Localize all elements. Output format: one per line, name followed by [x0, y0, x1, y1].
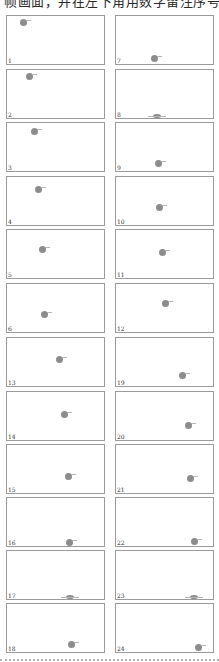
animation-frame: 11: [115, 229, 214, 279]
motion-trail-icon: [185, 597, 203, 598]
animation-frame: 10: [115, 176, 214, 226]
motion-trail-icon: [61, 597, 79, 598]
motion-trail-icon: [37, 129, 42, 130]
motion-trail-icon: [71, 474, 76, 475]
animation-frame: 20: [115, 391, 214, 441]
frame-number-label: 14: [8, 433, 16, 440]
motion-trail-icon: [193, 476, 198, 477]
motion-trail-icon: [67, 412, 72, 413]
dotted-divider: [0, 659, 219, 661]
animation-frame: 7: [115, 15, 214, 65]
frame-number-label: 16: [8, 539, 16, 546]
animation-frame: 15: [6, 444, 105, 494]
instruction-text: 帧画面，并在左下角用数字留注序号: [4, 0, 219, 10]
frame-number-label: 5: [8, 271, 12, 278]
animation-frame: 23: [115, 550, 214, 600]
animation-frame: 19: [115, 337, 214, 387]
animation-frame: 24: [115, 603, 214, 653]
frame-number-label: 2: [8, 111, 12, 118]
frame-number-label: 20: [117, 433, 125, 440]
frame-number-label: 9: [117, 164, 121, 171]
animation-frame: 13: [6, 337, 105, 387]
motion-trail-icon: [45, 247, 50, 248]
animation-frame: 3: [6, 122, 105, 172]
animation-frame: 18: [6, 603, 105, 653]
animation-frame: 8: [115, 69, 214, 119]
frame-number-label: 10: [117, 218, 125, 225]
animation-frame: 21: [115, 444, 214, 494]
animation-frame: 1: [6, 15, 105, 65]
motion-trail-icon: [185, 373, 190, 374]
motion-trail-icon: [47, 312, 52, 313]
frame-number-label: 21: [117, 486, 125, 493]
frame-number-label: 22: [117, 539, 125, 546]
frame-number-label: 8: [117, 111, 121, 118]
motion-trail-icon: [162, 205, 167, 206]
motion-trail-icon: [165, 250, 170, 251]
motion-trail-icon: [41, 187, 46, 188]
motion-trail-icon: [72, 540, 77, 541]
frame-number-label: 13: [8, 379, 16, 386]
animation-frame: 5: [6, 229, 105, 279]
animation-frame: 14: [6, 391, 105, 441]
motion-trail-icon: [168, 301, 173, 302]
animation-frame: 17: [6, 550, 105, 600]
frame-number-label: 24: [117, 645, 125, 652]
motion-trail-icon: [26, 20, 31, 21]
frame-number-label: 18: [8, 645, 16, 652]
frame-number-label: 7: [117, 57, 121, 64]
frame-number-label: 17: [8, 592, 16, 599]
animation-frame: 2: [6, 69, 105, 119]
motion-trail-icon: [201, 645, 206, 646]
animation-frame: 22: [115, 497, 214, 547]
motion-trail-icon: [157, 56, 162, 57]
motion-trail-icon: [148, 116, 166, 117]
frame-number-label: 12: [117, 325, 125, 332]
animation-frame: 12: [115, 283, 214, 333]
frame-number-label: 19: [117, 379, 125, 386]
frame-number-label: 4: [8, 218, 12, 225]
frame-number-label: 11: [117, 271, 125, 278]
motion-trail-icon: [74, 642, 79, 643]
frame-number-label: 3: [8, 164, 12, 171]
animation-frame: 9: [115, 122, 214, 172]
motion-trail-icon: [191, 423, 196, 424]
motion-trail-icon: [32, 74, 37, 75]
frame-number-label: 23: [117, 592, 125, 599]
animation-frame: 4: [6, 176, 105, 226]
motion-trail-icon: [197, 539, 202, 540]
motion-trail-icon: [161, 161, 166, 162]
frame-number-label: 1: [8, 57, 12, 64]
animation-frame: 16: [6, 497, 105, 547]
frame-number-label: 6: [8, 325, 12, 332]
motion-trail-icon: [62, 357, 67, 358]
frame-number-label: 15: [8, 486, 16, 493]
animation-frame: 6: [6, 283, 105, 333]
